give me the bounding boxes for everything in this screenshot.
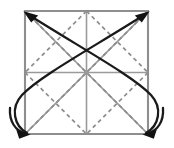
diagram-canvas	[0, 0, 174, 148]
origami-fold-diagram	[0, 0, 174, 148]
